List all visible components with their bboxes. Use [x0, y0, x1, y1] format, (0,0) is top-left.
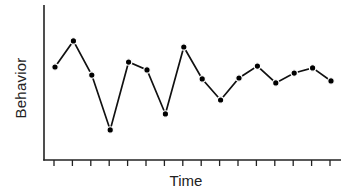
data-points	[52, 38, 334, 133]
data-point	[107, 127, 113, 133]
data-point	[162, 111, 168, 117]
y-axis-label: Behavior	[12, 58, 29, 119]
data-point	[254, 63, 260, 69]
data-point	[70, 38, 76, 44]
x-axis-ticks	[54, 160, 330, 166]
data-point	[181, 44, 187, 50]
data-point	[309, 65, 315, 71]
data-point	[217, 97, 223, 103]
data-point	[291, 70, 297, 76]
data-point	[199, 76, 205, 82]
data-point	[144, 67, 150, 73]
data-point	[328, 78, 334, 84]
data-point	[125, 59, 131, 65]
data-point	[52, 64, 58, 70]
data-point	[89, 72, 95, 78]
x-axis-label: Time	[170, 172, 203, 189]
line-chart	[0, 0, 357, 195]
data-point	[236, 75, 242, 81]
data-line	[55, 41, 331, 130]
data-point	[273, 80, 279, 86]
